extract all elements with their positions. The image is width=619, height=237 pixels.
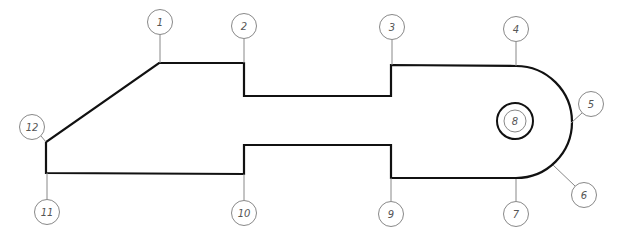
leader-line bbox=[41, 136, 46, 142]
part-outline-diagram: 8 12345679101112 bbox=[0, 0, 619, 237]
callout-2: 2 bbox=[232, 14, 257, 64]
callout-7: 7 bbox=[504, 179, 529, 227]
callout-label: 1 bbox=[157, 17, 163, 28]
callout-4: 4 bbox=[504, 17, 529, 67]
leader-line bbox=[553, 165, 575, 186]
callout-label: 10 bbox=[238, 208, 251, 219]
callout-label: 5 bbox=[588, 99, 594, 110]
callout-1: 1 bbox=[148, 10, 173, 64]
callout-9: 9 bbox=[379, 178, 404, 227]
callout-11: 11 bbox=[35, 173, 60, 225]
callout-6: 6 bbox=[553, 165, 597, 208]
hole-feature: 8 bbox=[497, 103, 533, 139]
callout-12: 12 bbox=[20, 115, 47, 143]
callout-label: 7 bbox=[513, 209, 520, 220]
callout-label: 12 bbox=[26, 122, 39, 133]
callout-label: 4 bbox=[513, 24, 519, 35]
callout-5: 5 bbox=[571, 92, 604, 124]
callout-label: 3 bbox=[389, 22, 395, 33]
part-outline bbox=[46, 63, 572, 178]
callout-label: 9 bbox=[388, 209, 394, 220]
callout-label: 11 bbox=[41, 207, 54, 218]
callout-label-8: 8 bbox=[512, 116, 518, 127]
callout-label: 2 bbox=[241, 21, 247, 32]
callout-10: 10 bbox=[232, 174, 257, 226]
callout-3: 3 bbox=[380, 15, 405, 66]
callout-label: 6 bbox=[581, 190, 587, 201]
